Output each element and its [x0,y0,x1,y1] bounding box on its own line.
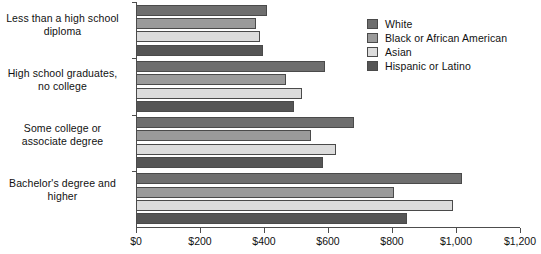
legend: White Black or African American Asian Hi… [367,17,532,74]
x-tick [456,228,457,233]
x-tick [136,228,137,233]
category-label-3-line-1: higher [0,190,125,203]
group-tick [132,171,137,172]
legend-swatch-black-or-african-american [367,33,378,43]
category-label-1: High school graduates, no college [0,67,125,93]
category-label-2-line-0: Some college or [0,122,125,135]
legend-swatch-white [367,19,378,29]
category-label-1-line-0: High school graduates, [0,67,125,80]
category-label-3: Bachelor's degree and higher [0,177,125,203]
bar [136,187,394,198]
category-label-2-line-1: associate degree [0,135,125,148]
bar [136,117,354,128]
x-tick [392,228,393,233]
legend-swatch-hispanic-or-latino [367,61,378,71]
category-label-0-line-1: diploma [0,25,125,38]
category-label-1-line-1: no college [0,80,125,93]
legend-label-hispanic-or-latino: Hispanic or Latino [385,60,471,72]
legend-label-white: White [385,18,412,30]
bar [136,200,453,211]
category-label-0-line-0: Less than a high school [0,12,125,25]
x-tick-label: $600 [298,235,358,247]
x-tick-label: $800 [362,235,422,247]
bar [136,88,302,99]
legend-item-asian: Asian [367,45,532,59]
bar [136,173,462,184]
category-label-2: Some college or associate degree [0,122,125,148]
group-tick [132,115,137,116]
x-tick-label: $400 [234,235,294,247]
category-label-0: Less than a high school diploma [0,12,125,38]
legend-label-black-or-african-american: Black or African American [385,32,507,44]
x-tick [264,228,265,233]
bar [136,157,323,168]
category-axis-labels: Less than a high school diploma High sch… [0,0,131,227]
legend-item-white: White [367,17,532,31]
x-tick [328,228,329,233]
bar [136,130,311,141]
bar [136,213,407,224]
bar [136,5,267,16]
legend-item-hispanic-or-latino: Hispanic or Latino [367,60,532,74]
bar [136,18,256,29]
legend-swatch-asian [367,47,378,57]
bar [136,144,336,155]
category-label-3-line-0: Bachelor's degree and [0,177,125,190]
legend-item-black-or-african-american: Black or African American [367,31,532,45]
bar [136,74,286,85]
group-tick [132,58,137,59]
x-tick-label: $0 [106,235,166,247]
bar [136,101,294,112]
x-tick [520,228,521,233]
x-tick-label: $1,200 [490,235,541,247]
legend-label-asian: Asian [385,46,412,58]
x-tick-label: $200 [170,235,230,247]
bar [136,61,325,72]
bar [136,45,263,56]
group-tick [132,2,137,3]
x-tick [200,228,201,233]
bar [136,31,260,42]
x-tick-label: $1,000 [426,235,486,247]
